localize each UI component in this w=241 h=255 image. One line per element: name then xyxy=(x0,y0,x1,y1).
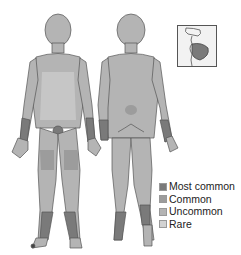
front-body-figure xyxy=(12,14,101,248)
swatch-rare xyxy=(159,220,167,228)
legend-label: Rare xyxy=(169,219,192,230)
legend-item-most-common: Most common xyxy=(159,181,235,192)
legend-item-common: Common xyxy=(159,194,235,205)
swatch-uncommon xyxy=(159,208,167,216)
lip-inset xyxy=(177,25,217,67)
swatch-most-common xyxy=(159,183,167,191)
legend-label: Uncommon xyxy=(169,206,223,217)
legend: Most common Common Uncommon Rare xyxy=(159,181,235,231)
swatch-common xyxy=(159,195,167,203)
face-profile-icon xyxy=(178,26,216,66)
legend-label: Common xyxy=(169,194,212,205)
legend-item-uncommon: Uncommon xyxy=(159,206,235,217)
legend-label: Most common xyxy=(169,181,235,192)
legend-item-rare: Rare xyxy=(159,219,235,230)
